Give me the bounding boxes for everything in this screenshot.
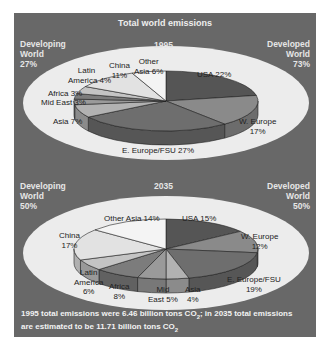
label-eeurope-1995: E. Europe/FSU 27% [122, 146, 194, 156]
label-weurope-1995: W. Europe17% [239, 117, 276, 136]
year-2035: 2035 [154, 181, 173, 191]
label-china-2035: China17% [59, 231, 80, 250]
year-1995: 1995 [154, 40, 173, 50]
developing-world-2035: Developing World 50% [20, 181, 66, 211]
label-eeurope-2035: E. Europe/FSU19% [227, 275, 281, 294]
label-weurope-2035: W. Europe12% [241, 232, 278, 251]
footer-note: 1995 total emissions were 6.46 billion t… [21, 309, 313, 334]
developed-world-2035: Developed World 50% [267, 181, 310, 211]
label-africa-1995: Africa 3% [48, 89, 82, 99]
developed-world-1995: Developed World 73% [267, 39, 310, 69]
developing-world-1995: Developing World 27% [20, 39, 66, 69]
figure-panel: Total world emissions Developing World 2… [14, 13, 316, 337]
label-otherasia-2035: Other Asia 14% [104, 214, 160, 224]
label-china-1995: China11% [109, 61, 130, 80]
label-africa-2035: Africa8% [109, 282, 129, 301]
label-usa-2035: USA 15% [182, 214, 216, 224]
label-latin-2035: LatinAmerica6% [74, 268, 103, 297]
label-asia-1995: Asia 7% [53, 117, 82, 127]
label-otherasia-1995: OtherAsia 6% [134, 57, 163, 76]
label-asia-2035: Asia4% [185, 285, 201, 304]
label-mideast-1995: Mid East 3% [41, 98, 86, 108]
label-latin-1995: LatinAmerica 4% [68, 66, 111, 85]
label-mideast-2035: MidEast 5% [148, 285, 178, 304]
label-usa-1995: USA 22% [197, 70, 231, 80]
